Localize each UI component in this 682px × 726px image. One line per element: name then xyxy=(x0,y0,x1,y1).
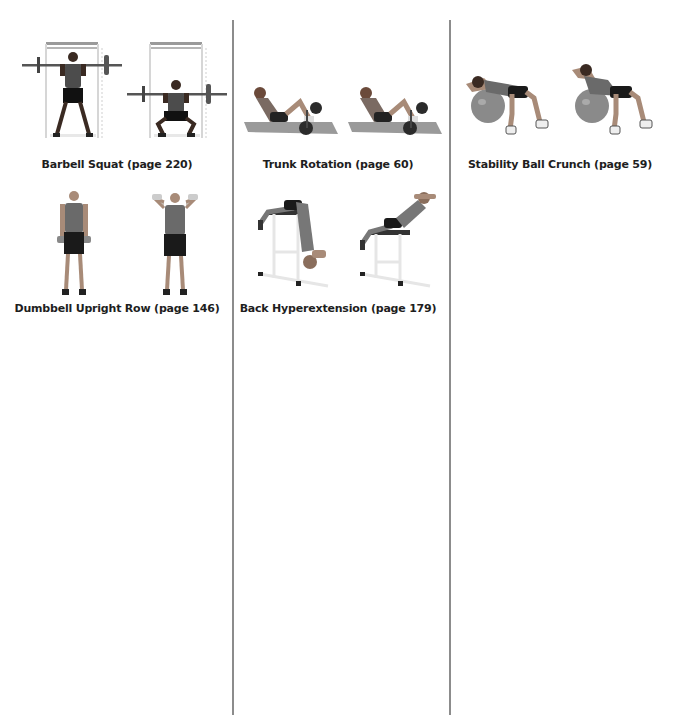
stability-ball-crunch-down-image xyxy=(464,62,560,142)
dumbbell-upright-row-start-image xyxy=(54,188,94,300)
column-divider-1 xyxy=(232,20,234,715)
dumbbell-upright-row-top-image xyxy=(150,188,200,300)
exercise-caption: Trunk Rotation (page 60) xyxy=(263,158,414,171)
trunk-rotation-twist-image xyxy=(346,84,444,140)
column-divider-2 xyxy=(449,20,451,715)
back-hyperextension-up-image xyxy=(356,192,438,290)
back-hyperextension-down-image xyxy=(254,192,336,290)
exercise-caption: Stability Ball Crunch (page 59) xyxy=(468,158,652,171)
exercise-caption: Back Hyperextension (page 179) xyxy=(240,302,437,315)
exercise-caption: Dumbbell Upright Row (page 146) xyxy=(14,302,219,315)
trunk-rotation-center-image xyxy=(242,84,340,140)
barbell-squat-start-image xyxy=(20,38,126,144)
exercise-caption: Barbell Squat (page 220) xyxy=(42,158,193,171)
stability-ball-crunch-up-image xyxy=(568,62,664,142)
barbell-squat-bottom-image xyxy=(126,38,230,144)
